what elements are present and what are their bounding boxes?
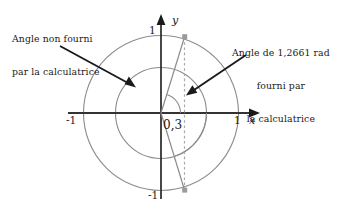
left-callout-line-2: par la calculatrice (12, 67, 100, 78)
left-callout-line-1: Angle non fourni (12, 34, 100, 45)
x-axis-tick-left: -1 (66, 114, 76, 126)
point-marker-upper (182, 34, 187, 39)
left-callout-text: Angle non fourni par la calculatrice (12, 12, 100, 100)
right-callout-line-3: la calculatrice (232, 114, 330, 125)
right-callout-arrowhead (186, 85, 197, 95)
right-callout-line-2: fourni par (232, 81, 330, 92)
left-callout-arrowhead (125, 76, 136, 87)
right-callout-text: Angle de 1,2661 rad fourni par la calcul… (232, 26, 330, 147)
cosine-value-label: 0,3 (163, 118, 182, 132)
x-axis-name: x (249, 115, 255, 128)
y-axis-tick-bottom: -1 (148, 189, 158, 201)
arc-calculator-angle (167, 95, 181, 114)
right-callout-line-1: Angle de 1,2661 rad (232, 48, 330, 59)
x-axis-tick-right: 1 (234, 114, 241, 126)
y-axis-arrowhead (157, 14, 166, 25)
point-marker-lower (182, 188, 187, 193)
radius-positive-angle (161, 37, 185, 113)
y-axis-tick-top: 1 (149, 24, 156, 36)
trigonometric-circle-figure: Angle non fourni par la calculatrice Ang… (0, 0, 355, 214)
y-axis-name: y (172, 15, 178, 28)
